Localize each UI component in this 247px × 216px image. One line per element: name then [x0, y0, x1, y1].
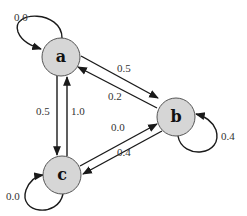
- node-label-b: b: [170, 107, 181, 126]
- edge-label-a-c: 0.5: [36, 105, 50, 117]
- edge-label-c-a: 1.0: [71, 105, 85, 117]
- edge-label-a-a: 0.0: [14, 11, 28, 23]
- edge-label-b-a: 0.2: [108, 90, 122, 102]
- node-c: c: [43, 156, 81, 194]
- edge-label-c-c: 0.0: [6, 190, 20, 202]
- node-a: a: [42, 38, 80, 76]
- edge-label-c-b: 0.0: [111, 121, 125, 133]
- markov-chain-diagram: 0.0 0.5 0.2 0.5 1.0 0.0 0.4 0.4 0.0 a b …: [0, 0, 247, 216]
- node-label-a: a: [56, 47, 66, 66]
- node-label-c: c: [57, 165, 67, 184]
- edge-label-b-b: 0.4: [221, 130, 235, 142]
- edge-label-a-b: 0.5: [117, 62, 131, 74]
- node-b: b: [157, 98, 195, 136]
- edge-label-b-c: 0.4: [117, 146, 131, 158]
